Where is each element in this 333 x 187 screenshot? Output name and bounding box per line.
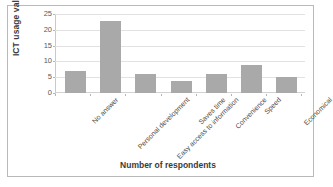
gridline-15 bbox=[55, 46, 305, 47]
x-tick-mark bbox=[231, 94, 232, 96]
x-axis-category-labels: No answer Personal development Easy acce… bbox=[55, 94, 305, 160]
gridline-25 bbox=[55, 14, 305, 15]
x-tick-label-personal-development: Personal development bbox=[136, 96, 190, 150]
bar-speed[interactable] bbox=[241, 65, 262, 93]
y-tick-label: 25 bbox=[36, 10, 52, 18]
x-axis-title: Number of respondents bbox=[34, 160, 302, 170]
y-tick-label: 0 bbox=[36, 89, 52, 97]
y-tick-label: 10 bbox=[36, 57, 52, 65]
y-tick-label: 5 bbox=[36, 73, 52, 81]
y-axis-title: ICT usage value bbox=[11, 0, 21, 71]
x-tick-mark bbox=[301, 94, 302, 96]
bar-easy-access-to-information[interactable] bbox=[135, 74, 156, 93]
x-tick-mark bbox=[55, 94, 56, 96]
x-tick-label-no-answer: No answer bbox=[91, 96, 120, 125]
y-axis-tick-labels: 25 20 15 10 5 0 bbox=[33, 14, 52, 93]
bar-personal-development[interactable] bbox=[100, 21, 121, 93]
bar-economical[interactable] bbox=[276, 77, 297, 93]
gridline-20 bbox=[55, 30, 305, 31]
bar-saves-time[interactable] bbox=[171, 81, 192, 93]
x-tick-mark bbox=[266, 94, 267, 96]
y-tick-label: 20 bbox=[36, 26, 52, 34]
plot-area bbox=[55, 14, 305, 93]
x-tick-mark bbox=[125, 94, 126, 96]
y-tick-label: 15 bbox=[36, 42, 52, 50]
gridline-10 bbox=[55, 61, 305, 62]
x-tick-mark bbox=[161, 94, 162, 96]
bar-convenience[interactable] bbox=[206, 74, 227, 93]
bar-no-answer[interactable] bbox=[65, 71, 86, 93]
x-tick-mark bbox=[90, 94, 91, 96]
x-tick-mark bbox=[196, 94, 197, 96]
gridline-5 bbox=[55, 77, 305, 78]
